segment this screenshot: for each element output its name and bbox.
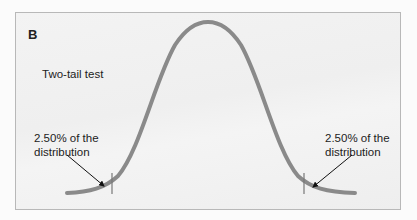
normal-distribution-curve <box>0 0 417 220</box>
left-arrow-icon <box>67 155 104 186</box>
bell-curve-path <box>67 22 355 193</box>
right-arrow-icon <box>313 155 352 187</box>
